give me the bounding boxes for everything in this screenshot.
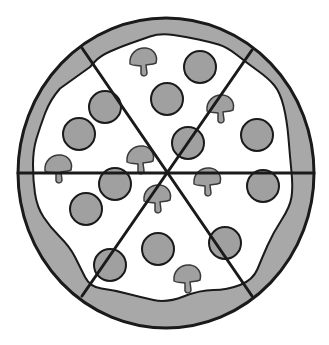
pizza-graphic	[0, 0, 329, 345]
pepperoni	[70, 193, 102, 225]
pepperoni	[151, 83, 183, 115]
pepperoni	[63, 118, 95, 150]
pepperoni	[241, 119, 273, 151]
pepperoni	[184, 51, 216, 83]
pepperoni	[142, 233, 174, 265]
pepperoni	[247, 170, 279, 202]
pizza-illustration	[0, 0, 329, 345]
